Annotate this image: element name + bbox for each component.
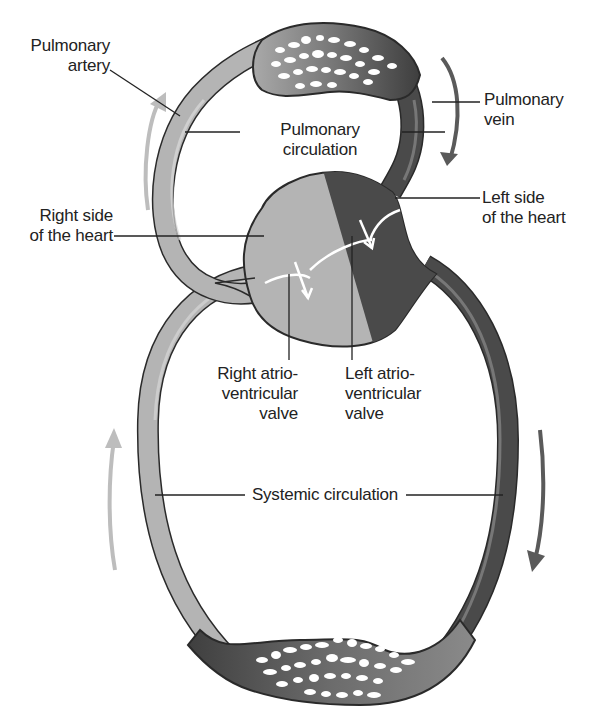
body-capillary-bed: [188, 620, 475, 705]
left-av-valve-label: Left atrio- ventricular valve: [345, 364, 455, 424]
systemic-outflow-flow-arrow: [535, 430, 543, 560]
lung-capillary-bed: [253, 23, 420, 100]
left-side-heart-label: Left side of the heart: [482, 188, 588, 228]
right-av-valve-label: Right atrio- ventricular valve: [190, 364, 298, 424]
heart: [215, 160, 460, 360]
pulmonary-artery-label: Pulmonary artery: [10, 36, 110, 76]
pulmonary-vein-label: Pulmonary vein: [484, 90, 584, 130]
systemic-return-flow-arrow: [110, 440, 115, 570]
pulmonary-vein-flow-arrow: [442, 58, 458, 160]
pulmonary-circulation-label: Pulmonary circulation: [240, 120, 400, 160]
systemic-circulation-label: Systemic circulation: [245, 485, 405, 505]
right-side-heart-label: Right side of the heart: [10, 206, 113, 246]
